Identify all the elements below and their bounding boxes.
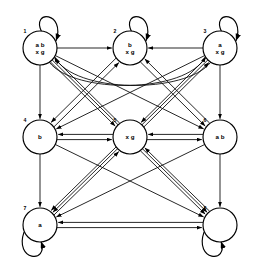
edge-8-to-5 — [145, 148, 210, 211]
edge-4-to-8 — [55, 144, 203, 217]
edge-3-to-4 — [56, 56, 204, 129]
node-label-6: a b — [216, 133, 225, 140]
node-label-1-line2: x g — [36, 48, 45, 55]
node-index-2: 2 — [114, 28, 117, 34]
graph-node-5[interactable]: 5x g — [113, 117, 147, 154]
node-index-3: 3 — [204, 28, 207, 34]
node-label-2-line1: b — [128, 41, 132, 48]
edge-1-to-6 — [55, 56, 203, 129]
node-label-7: a — [38, 221, 42, 228]
node-index-4: 4 — [24, 117, 27, 123]
graph-node-2[interactable]: 2bx g — [113, 28, 147, 65]
edge-7-to-5 — [54, 152, 119, 215]
node-label-3-line1: a — [218, 41, 222, 48]
graph-diagram: 1a bx g2bx g3ax g4b5x g6a b7a8 — [0, 0, 262, 273]
graph-canvas: 1a bx g2bx g3ax g4b5x g6a b7a8 — [0, 0, 262, 273]
node-index-5: 5 — [114, 117, 117, 123]
edge-4-to-2 — [54, 63, 119, 127]
node-label-5: x g — [126, 133, 135, 140]
graph-node-3[interactable]: 3ax g — [203, 28, 237, 65]
edge-5-to-7 — [51, 147, 116, 210]
graph-node-4[interactable]: 4b — [23, 117, 57, 154]
edge-6-to-7 — [56, 144, 204, 217]
node-label-1-line1: a b — [36, 41, 45, 48]
graph-node-6[interactable]: 6a b — [203, 117, 237, 154]
node-label-4: b — [38, 133, 42, 140]
node-label-2-line2: x g — [126, 48, 135, 55]
node-label-3-line2: x g — [216, 48, 225, 55]
node-index-8: 8 — [204, 205, 207, 211]
graph-node-1[interactable]: 1a bx g — [23, 28, 57, 65]
graph-node-7[interactable]: 7a — [23, 205, 57, 242]
node-index-1: 1 — [24, 28, 27, 34]
node-circle-8[interactable] — [203, 208, 237, 242]
edge-6-to-2 — [145, 59, 210, 123]
node-index-6: 6 — [204, 117, 207, 123]
node-index-7: 7 — [24, 205, 27, 211]
graph-node-8[interactable]: 8 — [203, 205, 237, 242]
